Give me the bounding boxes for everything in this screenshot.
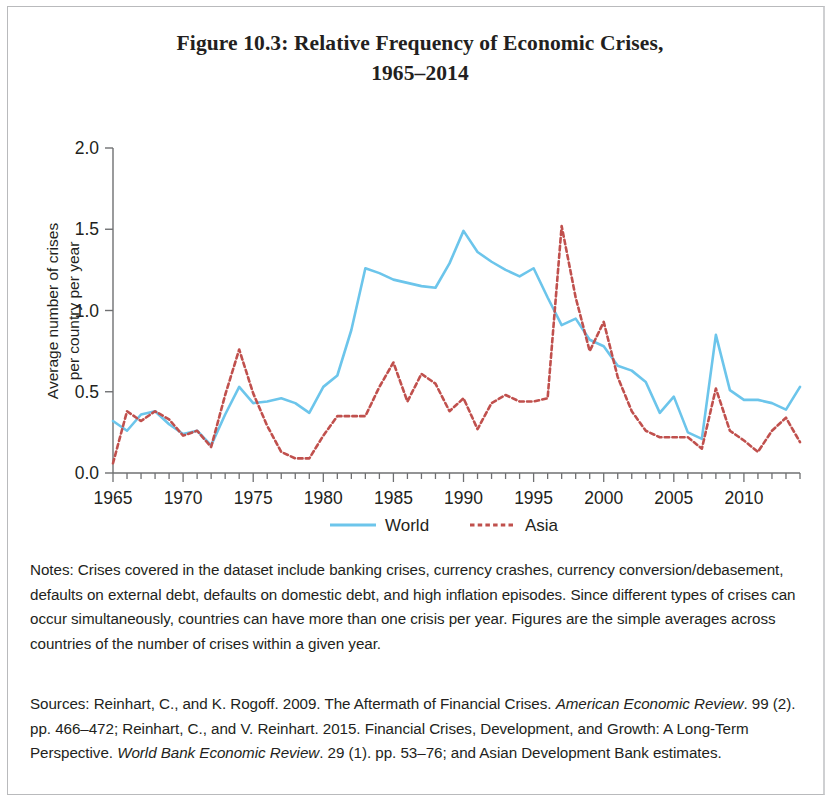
legend-label-world: World [385,516,429,535]
plot-area-background [113,148,788,473]
y-tick-label: 1.5 [75,219,99,239]
figure-page: Figure 10.3: Relative Frequency of Econo… [0,0,832,801]
legend-label-asia: Asia [525,516,559,535]
line-chart: 0.00.51.01.52.0 196519701975198019851990… [0,115,832,545]
sources-text-part-1: Sources: Reinhart, C., and K. Rogoff. 20… [30,695,556,712]
chart-container: 0.00.51.01.52.0 196519701975198019851990… [0,115,832,545]
sources-paragraph: Sources: Reinhart, C., and K. Rogoff. 20… [30,692,808,766]
x-tick-label: 1985 [374,488,413,508]
notes-paragraph: Notes: Crises covered in the dataset inc… [30,558,808,656]
x-tick-label: 1995 [514,488,553,508]
x-tick-label: 2000 [584,488,623,508]
y-tick-label: 2.0 [75,138,100,158]
sources-journal-1: American Economic Review [556,695,744,712]
sources-text-part-3: . 29 (1). pp. 53–76; and Asian Developme… [319,744,721,761]
y-axis-ticks [105,148,113,473]
x-tick-label: 1975 [234,488,273,508]
x-axis-ticks [113,473,800,482]
sources-journal-2: World Bank Economic Review [117,744,319,761]
y-tick-label: 0.0 [75,463,100,483]
notes-text: Notes: Crises covered in the dataset inc… [30,561,796,652]
x-tick-label: 1980 [304,488,343,508]
chart-legend: WorldAsia [330,516,559,535]
x-tick-label: 2005 [654,488,693,508]
y-axis-title-line-1: Average number of crises [44,223,61,400]
figure-title-line-2: 1965–2014 [70,58,770,88]
page-title: Figure 10.3: Relative Frequency of Econo… [70,28,770,88]
x-tick-label: 1990 [444,488,483,508]
y-axis-title-line-2: per country per year [65,242,82,381]
x-tick-label: 1970 [164,488,203,508]
x-tick-label: 1965 [94,488,133,508]
x-axis-tick-labels: 1965197019751980198519901995200020052010 [94,488,764,508]
y-axis-title: Average number of crises per country per… [44,223,82,400]
x-tick-label: 2010 [724,488,763,508]
y-tick-label: 0.5 [75,382,99,402]
figure-title-line-1: Figure 10.3: Relative Frequency of Econo… [70,28,770,58]
